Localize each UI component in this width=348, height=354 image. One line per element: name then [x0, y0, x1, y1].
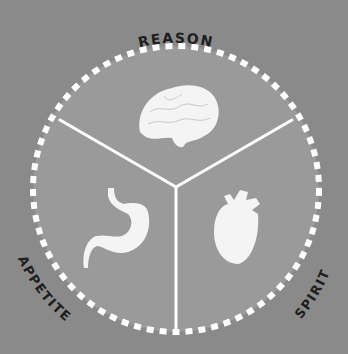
diagram-canvas: REASON APPETITE SPIRIT: [0, 0, 348, 354]
label-spirit: SPIRIT: [292, 267, 333, 322]
tripartite-soul-diagram: REASON APPETITE SPIRIT: [0, 0, 348, 354]
